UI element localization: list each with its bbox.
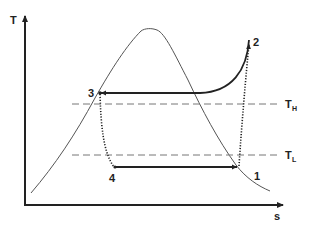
point-label-3: 3: [88, 87, 94, 99]
point-label-1: 1: [254, 170, 260, 182]
th-label: T: [285, 98, 292, 110]
process-2-3: [101, 40, 249, 93]
point-label-4: 4: [109, 172, 116, 184]
tl-label-sub: L: [292, 156, 297, 163]
ts-diagram: T s T H T L 1 2 3 4: [0, 0, 310, 229]
point-3-marker: [98, 91, 102, 95]
tl-line-group: T L: [72, 149, 297, 163]
point-label-2: 2: [253, 36, 259, 48]
th-line-group: T H: [72, 98, 297, 112]
process-3-4: [100, 94, 114, 167]
point-4-marker: [113, 165, 116, 168]
saturation-dome: [31, 29, 270, 193]
x-axis-label: s: [274, 210, 280, 222]
th-label-sub: H: [292, 105, 297, 112]
y-axis-label: T: [10, 14, 17, 26]
tl-label: T: [285, 149, 292, 161]
